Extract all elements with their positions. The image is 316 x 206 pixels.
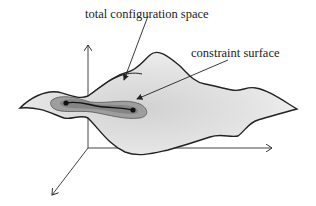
start-point bbox=[63, 100, 68, 105]
configuration-space-diagram: total configuration space constraint sur… bbox=[0, 0, 316, 206]
constraint-surface-label: constraint surface bbox=[191, 46, 280, 60]
depth-axis bbox=[52, 148, 88, 195]
end-point bbox=[130, 107, 135, 112]
total-space-label: total configuration space bbox=[85, 7, 209, 21]
